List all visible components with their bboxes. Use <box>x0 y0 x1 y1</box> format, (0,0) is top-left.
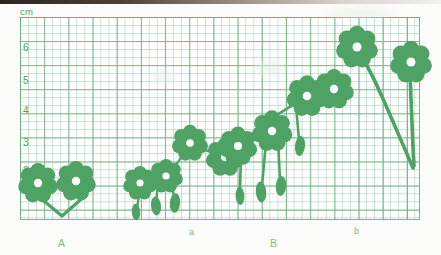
y-axis-unit-label: cm <box>20 6 33 17</box>
paper-blotch <box>330 8 390 18</box>
x-tick-b: b <box>354 227 359 236</box>
y-tick-6: 6 <box>23 43 29 53</box>
y-tick-4: 4 <box>23 106 29 116</box>
y-tick-3: 3 <box>23 138 29 148</box>
figure-canvas: cm 6 5 4 3 2 A a B b <box>0 0 441 255</box>
graph-paper-grid <box>20 17 420 220</box>
scan-edge-artifact <box>0 0 441 4</box>
paper-blotch <box>255 60 285 76</box>
y-tick-5: 5 <box>23 76 29 86</box>
x-tick-a: a <box>189 228 194 237</box>
paper-blotch <box>150 70 176 84</box>
x-tick-A: A <box>58 238 65 249</box>
x-tick-B: B <box>270 238 277 249</box>
y-tick-2: 2 <box>23 166 29 176</box>
